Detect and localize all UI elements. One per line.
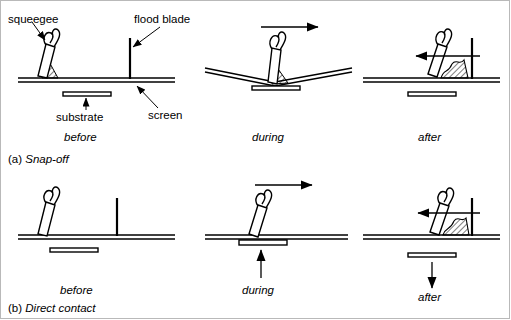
squeegee-handle-a-during [270, 32, 286, 50]
squeegee-handle-b-during [256, 190, 272, 208]
diagram-drawing [0, 0, 511, 320]
stage-label-b-during: during [242, 285, 274, 297]
callout-label-flood-blade: flood blade [134, 14, 190, 26]
ink-a-after [441, 60, 468, 78]
substrate-b-during [239, 240, 287, 245]
panel-a-after [363, 29, 500, 96]
squeegee-handle-b-before [44, 187, 60, 205]
substrate-b-before [50, 248, 98, 252]
substrate-a-before [63, 92, 111, 96]
section-marker-b: (b) [8, 302, 22, 314]
screen-a-before [18, 78, 175, 82]
callout-label-substrate: substrate [56, 112, 103, 124]
substrate-a-during [252, 86, 300, 90]
stage-label-a-after: after [418, 132, 441, 144]
ink-b-after [443, 218, 469, 235]
stage-label-b-before: before [60, 285, 93, 297]
panel-a-during [205, 27, 352, 90]
section-name-a: Snap-off [25, 153, 68, 165]
screen-a-after [363, 78, 500, 82]
panel-b-during [205, 185, 348, 278]
section-label-direct-contact: (b) Direct contact [8, 303, 96, 315]
screen-b-after [363, 235, 500, 239]
squeegee-handle-a-before [44, 29, 60, 47]
panel-b-before [18, 187, 175, 252]
squeegee-handle-a-after [436, 29, 452, 47]
stage-label-a-during: during [252, 132, 284, 144]
callout-label-squeegee: squeegee [8, 14, 59, 26]
section-label-snap-off: (a) Snap-off [8, 154, 69, 166]
panel-a-before [18, 22, 175, 110]
section-marker-a: (a) [8, 153, 22, 165]
callout-label-screen: screen [148, 110, 183, 122]
squeegee-b-during [249, 205, 267, 237]
squeegee-b-before [38, 202, 55, 236]
screen-b-during [205, 235, 348, 239]
leader-screen [137, 86, 158, 108]
figure-canvas: squeegee flood blade substrate screen be… [0, 0, 511, 320]
substrate-b-after [408, 253, 456, 257]
screen-b-before [18, 235, 175, 239]
panel-b-after [363, 188, 500, 288]
squeegee-handle-b-after [438, 188, 454, 206]
stage-label-a-before: before [64, 132, 97, 144]
substrate-a-after [408, 92, 456, 96]
section-name-b: Direct contact [25, 302, 95, 314]
leader-flood-blade [133, 27, 160, 47]
stage-label-b-after: after [418, 292, 441, 304]
